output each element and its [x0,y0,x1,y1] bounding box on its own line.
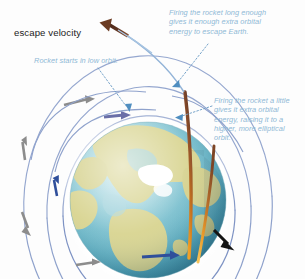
leader-escape-long [178,44,208,82]
annotation-low-orbit-start: Rocket starts in low orbit. [34,56,156,65]
arrow-navy-elliptical-left [53,175,59,196]
annotation-escape-long-burn: Firing the rocket long enough gives it e… [169,8,301,36]
arrow-gray-outer-orbit-lower-left [22,212,32,236]
escape-arrow-head [100,19,113,32]
escape-velocity-label: escape velocity [14,27,81,38]
leader-lines [98,44,212,116]
diagram-canvas: escape velocity Firing the rocket long e… [0,0,305,279]
annotation-elliptical-burn: Firing the rocket a little gives it extr… [214,96,302,142]
arrow-gray-outer-orbit-left [21,136,27,160]
